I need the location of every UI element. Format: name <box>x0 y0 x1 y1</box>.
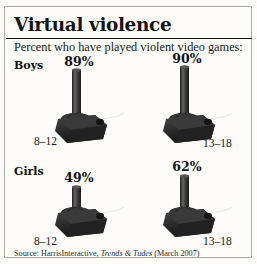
source-publication: Trends & Tudes <box>101 249 153 258</box>
infographic-frame: Virtual violence Percent who have played… <box>4 6 252 258</box>
infographic-panel: Virtual violence Percent who have played… <box>0 0 257 264</box>
source-suffix: (March 2007) <box>152 249 199 258</box>
title-divider <box>6 38 252 39</box>
joystick-icon-boys-8-12 <box>51 67 125 151</box>
age-label-girls-8-12: 8–12 <box>34 235 57 247</box>
page-title: Virtual violence <box>14 14 171 35</box>
group-label-boys: Boys <box>14 59 43 72</box>
joystick-icon-girls-8-12 <box>51 183 125 245</box>
age-label-boys-8-12: 8–12 <box>34 135 57 147</box>
source-note: Source: HarrisInteractive, Trends & Tude… <box>14 249 199 258</box>
age-label-girls-13-18: 13–18 <box>203 235 232 247</box>
group-label-girls: Girls <box>14 165 44 178</box>
age-label-boys-13-18: 13–18 <box>203 137 232 149</box>
source-prefix: Source: HarrisInteractive, <box>14 249 101 258</box>
